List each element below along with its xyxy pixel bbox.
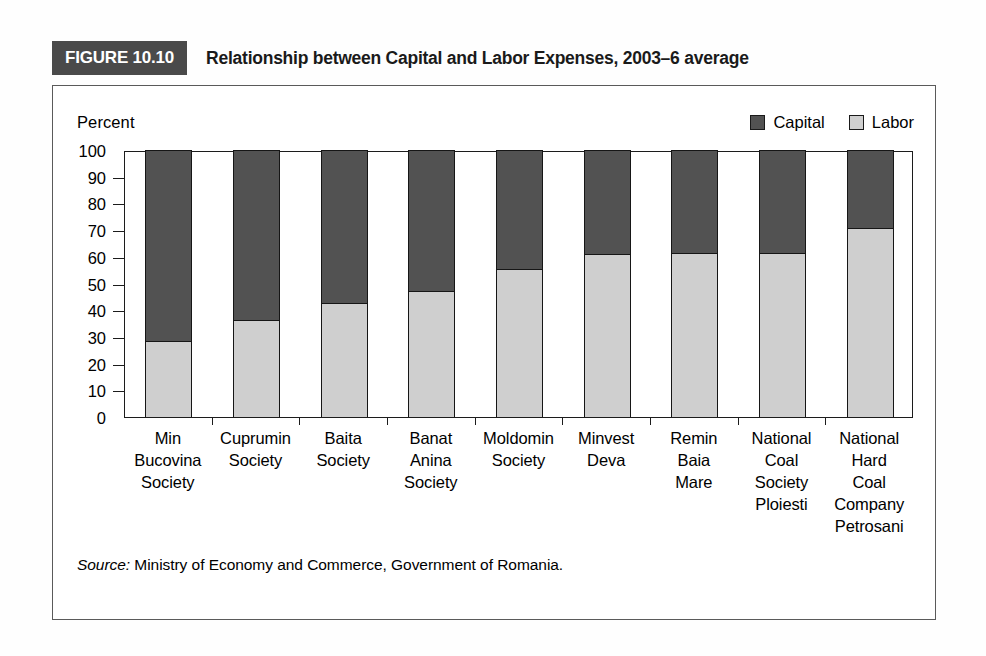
x-axis-category-label: BaitaSociety [299,428,387,472]
bar-segment-labor [408,292,455,417]
legend-swatch-capital [750,115,765,130]
x-axis-category-label-line: Society [212,450,300,472]
x-axis-category-label-line: Coal [825,472,913,494]
bar-segment-labor [496,270,543,417]
x-axis-category-label-line: National [825,428,913,450]
x-axis-category-label-line: Society [124,472,212,494]
bar-segment-capital [847,150,894,229]
x-axis-category-label: MoldominSociety [475,428,563,472]
x-axis-category-label-line: Company [825,494,913,516]
source-label: Source: [77,556,130,573]
x-axis-category-label-line: Society [387,472,475,494]
source-note: Source: Ministry of Economy and Commerce… [77,556,563,574]
x-axis-category-label-line: Baia [650,450,738,472]
bar-segment-capital [759,150,806,254]
x-axis-category-label-line: Baita [299,428,387,450]
x-axis-tick-mark [825,418,826,425]
x-axis-tick-mark [212,418,213,425]
bar-stack [408,150,455,417]
x-axis-category-label-line: Bucovina [124,450,212,472]
x-axis-category-label: NationalHardCoalCompanyPetrosani [825,428,913,538]
y-axis-tick-mark [113,391,124,392]
x-axis-category-label-line: Moldomin [475,428,563,450]
y-axis-tick-label: 60 [68,250,106,267]
y-axis-tick-mark [113,231,124,232]
y-axis-tick-mark [113,285,124,286]
bar-segment-capital [145,150,192,342]
x-axis-tick-mark [299,418,300,425]
y-axis-tick-mark [113,338,124,339]
y-axis-title: Percent [77,113,135,132]
bar-stack [671,150,718,417]
legend-label-capital: Capital [773,113,824,132]
bar-segment-capital [233,150,280,321]
bar-stack [145,150,192,417]
x-axis-category-label: ReminBaiaMare [650,428,738,494]
y-axis-tick-label: 80 [68,196,106,213]
x-axis-tick-mark [387,418,388,425]
bar-segment-capital [496,150,543,270]
bar-stack [496,150,543,417]
legend-swatch-labor [849,115,864,130]
figure-number-badge: FIGURE 10.10 [52,41,187,75]
x-axis-category-label-line: Deva [562,450,650,472]
chart-legend: Capital Labor [750,113,914,132]
x-axis-category-label-line: Hard [825,450,913,472]
bar-segment-labor [671,254,718,417]
x-axis-tick-mark [475,418,476,425]
bar-segment-capital [321,150,368,304]
y-axis-tick-mark [113,365,124,366]
x-axis-category-label-line: Coal [738,450,826,472]
bar-stack [584,150,631,417]
x-axis-category-label-line: Anina [387,450,475,472]
x-axis-category-label-line: Min [124,428,212,450]
x-axis-category-label-line: Society [475,450,563,472]
figure-container: FIGURE 10.10 Relationship between Capita… [0,0,986,656]
legend-item-labor: Labor [849,113,914,132]
y-axis-tick-mark [113,258,124,259]
y-axis-tick-label: 50 [68,276,106,293]
bar-segment-labor [321,304,368,417]
x-axis-category-label: MinBucovinaSociety [124,428,212,494]
x-axis-tick-mark [650,418,651,425]
bar-segment-labor [584,255,631,417]
bar-segment-capital [408,150,455,292]
legend-label-labor: Labor [872,113,914,132]
x-axis-category-label-line: Mare [650,472,738,494]
bar-segment-labor [759,254,806,417]
bar-segment-labor [145,342,192,417]
bar-segment-labor [233,321,280,417]
y-axis-tick-label: 0 [68,410,106,427]
y-axis-tick-mark [113,178,124,179]
figure-title: Relationship between Capital and Labor E… [187,41,749,75]
bar-segment-capital [584,150,631,255]
x-axis-category-label-line: Cuprumin [212,428,300,450]
y-axis-tick-label: 40 [68,303,106,320]
x-axis-category-label-line: Society [299,450,387,472]
y-axis-tick-mark [113,204,124,205]
x-axis-category-label-line: Ploiesti [738,494,826,516]
x-axis-tick-mark [562,418,563,425]
bar-stack [759,150,806,417]
source-text: Ministry of Economy and Commerce, Govern… [130,556,563,573]
x-axis-category-label-line: National [738,428,826,450]
x-axis-category-label: NationalCoalSocietyPloiesti [738,428,826,516]
y-axis-tick-label: 70 [68,223,106,240]
bar-stack [321,150,368,417]
legend-item-capital: Capital [750,113,824,132]
figure-title-bar: FIGURE 10.10 Relationship between Capita… [52,41,938,75]
x-axis-tick-mark [738,418,739,425]
x-axis-category-label: CupruminSociety [212,428,300,472]
bar-stack [233,150,280,417]
y-axis-tick-label: 100 [68,143,106,160]
x-axis-category-label-line: Remin [650,428,738,450]
x-axis-category-label-line: Banat [387,428,475,450]
y-axis-tick-mark [113,311,124,312]
bar-segment-capital [671,150,718,254]
x-axis-category-label-line: Petrosani [825,516,913,538]
bar-segment-labor [847,229,894,417]
y-axis-tick-label: 30 [68,330,106,347]
plot-area [124,151,913,418]
x-axis-category-label: MinvestDeva [562,428,650,472]
y-axis-tick-label: 90 [68,169,106,186]
